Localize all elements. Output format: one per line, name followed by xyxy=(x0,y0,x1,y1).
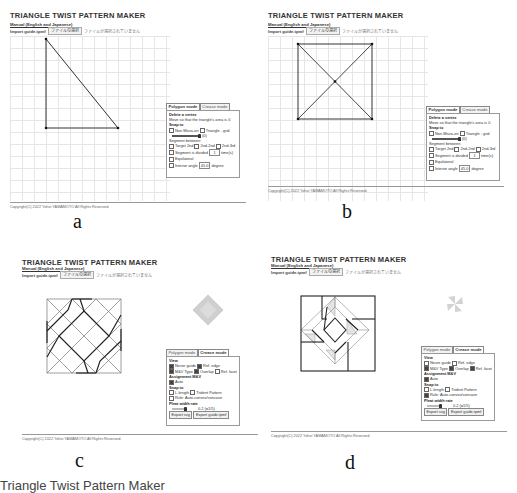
interior-angle: Interior angle xyxy=(435,166,458,171)
snap-triangle-grid: Triangle - grid xyxy=(206,128,230,133)
footer-divider xyxy=(10,202,246,203)
checkbox[interactable] xyxy=(169,150,174,155)
caption-a: a xyxy=(73,210,82,233)
folded-preview xyxy=(445,294,465,314)
pleat-slider[interactable] xyxy=(172,408,186,410)
footer-divider xyxy=(271,431,507,432)
snap-slider[interactable] xyxy=(432,138,460,140)
target-2nd: Target 2nd xyxy=(175,143,193,148)
trident-pattern: Trident Pattern xyxy=(196,390,222,395)
export-svg-button[interactable]: Export svg xyxy=(424,408,447,415)
checkbox[interactable] xyxy=(169,364,174,369)
panel-d: TRIANGLE TWIST PATTERN MAKER Manual (Eng… xyxy=(267,250,517,485)
checkbox[interactable] xyxy=(424,361,429,366)
degree-label: degree xyxy=(211,163,223,168)
l-length: L-length xyxy=(430,387,444,392)
pleat-slider[interactable] xyxy=(427,405,441,407)
checkbox[interactable] xyxy=(429,153,434,158)
copyright: Copyright(C) 2022 Yohei YAMAMOTO All Rig… xyxy=(268,189,367,193)
ref-facet: Ref. facet xyxy=(221,369,237,374)
checkbox[interactable] xyxy=(470,366,475,371)
angle-input[interactable]: 45.0 xyxy=(199,162,211,169)
target-2nd: Target 2nd xyxy=(435,146,453,151)
degree-label: degree xyxy=(471,166,483,171)
export-svg-button[interactable]: Export svg xyxy=(169,411,192,418)
rule: Rule: Auto-convex/concave xyxy=(175,395,222,400)
checkbox[interactable] xyxy=(169,163,174,168)
export-guide-button[interactable]: Export guide.tpmf xyxy=(448,408,484,415)
footer-divider xyxy=(22,434,258,435)
slider-value: (0) xyxy=(202,133,207,138)
never-guide: Never guide xyxy=(430,360,451,365)
segment-divided: Segment is divided xyxy=(435,153,468,158)
footer-divider xyxy=(268,186,504,187)
overlap: Overlap xyxy=(455,366,469,371)
mv-type: M&V Type xyxy=(175,369,193,374)
equilateral: Equilateral xyxy=(175,156,193,161)
trident-pattern: Trident Pattern xyxy=(451,387,477,392)
copyright: Copyright(C) 2022 Yohei YAMAMOTO All Rig… xyxy=(271,434,370,438)
slider-value: (0) xyxy=(462,136,467,141)
equilateral: Equilateral xyxy=(435,159,453,164)
crease-control-panel: View Never guide Ref. edge M&V Type Over… xyxy=(421,353,495,421)
segment-divided: Segment is divided xyxy=(175,150,208,155)
overlap: Overlap xyxy=(200,369,214,374)
snap-triangle-grid: Triangle - grid xyxy=(466,131,490,136)
divided-input[interactable]: 1 xyxy=(209,149,220,156)
times-label: time(s) xyxy=(221,150,233,155)
polygon-control-panel: Delete a vertex Move so that the triangl… xyxy=(166,110,240,178)
2nd-2nd: 2nd-2nd xyxy=(200,143,214,148)
ref-facet: Ref. facet xyxy=(476,366,492,371)
rule: Rule: Auto-convex/concave xyxy=(430,392,477,397)
panel-a: TRIANGLE TWIST PATTERN MAKER Manual (Eng… xyxy=(6,6,256,241)
2nd-2nd: 2nd-2nd xyxy=(460,146,474,151)
panel-b: TRIANGLE TWIST PATTERN MAKER Manual (Eng… xyxy=(264,6,514,241)
interior-angle: Interior angle xyxy=(175,163,198,168)
2nd-3rd: 2nd-3rd xyxy=(482,146,495,151)
checkbox[interactable] xyxy=(429,160,434,165)
panel-c: TRIANGLE TWIST PATTERN MAKER Manual (Eng… xyxy=(18,253,268,488)
auto: Auto xyxy=(175,379,183,384)
snap-slider[interactable] xyxy=(172,135,200,137)
copyright: Copyright(C) 2022 Yohei YAMAMOTO All Rig… xyxy=(22,437,121,441)
caption-d: d xyxy=(345,451,355,474)
auto: Auto xyxy=(430,376,438,381)
checkbox[interactable] xyxy=(169,157,174,162)
angle-input[interactable]: 45.0 xyxy=(459,165,471,172)
caption-c: c xyxy=(75,449,84,472)
times-label: time(s) xyxy=(481,153,493,158)
figure-caption-partial: Triangle Twist Pattern Maker xyxy=(0,478,165,493)
caption-b: b xyxy=(342,200,352,223)
export-guide-button[interactable]: Export guide.tpmf xyxy=(193,411,229,418)
never-guide: Never guide xyxy=(175,363,196,368)
2nd-3rd: 2nd-3rd xyxy=(222,143,235,148)
l-length: L-length xyxy=(175,390,189,395)
mv-type: M&V Type xyxy=(430,366,448,371)
crease-control-panel: View Never guide Ref. edge M&V Type Over… xyxy=(166,356,240,426)
checkbox[interactable] xyxy=(215,369,220,374)
ref-edge: Ref. edge xyxy=(458,360,475,365)
checkbox[interactable] xyxy=(429,166,434,171)
divided-input[interactable]: 1 xyxy=(469,152,480,159)
snap-non-miura: Non Miura-ori xyxy=(175,128,199,133)
ref-edge: Ref. edge xyxy=(203,363,220,368)
polygon-control-panel: Delete a vertex Move so that the triangl… xyxy=(426,113,500,181)
snap-non-miura: Non Miura-ori xyxy=(435,131,459,136)
copyright: Copyright(C) 2022 Yohei YAMAMOTO All Rig… xyxy=(10,205,109,209)
